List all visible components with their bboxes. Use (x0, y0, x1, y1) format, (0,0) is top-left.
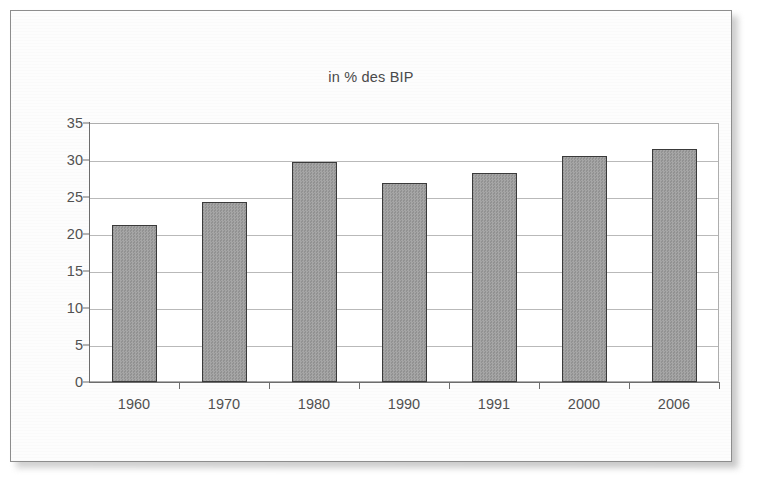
y-axis-tick-mark (83, 382, 90, 383)
y-axis-tick-label: 35 (49, 115, 83, 131)
y-axis-tick-mark (83, 271, 90, 272)
y-axis-tick-label: 20 (49, 226, 83, 242)
y-axis-tick-mark (83, 160, 90, 161)
bar-2000 (562, 156, 607, 382)
x-axis-tick-mark (629, 382, 630, 389)
x-axis-tick-mark (539, 382, 540, 389)
x-axis-tick-mark (179, 382, 180, 389)
bar-1970 (202, 202, 247, 382)
y-axis-tick-label: 5 (49, 337, 83, 353)
x-axis-tick-label-1991: 1991 (478, 396, 510, 412)
y-axis-tick-mark (83, 123, 90, 124)
x-axis-line (89, 382, 720, 383)
x-axis-tick-label-2000: 2000 (568, 396, 600, 412)
y-axis-tick-mark (83, 197, 90, 198)
x-axis-tick-label-1980: 1980 (298, 396, 330, 412)
y-axis-tick-mark (83, 345, 90, 346)
x-axis-tick-mark (719, 382, 720, 389)
bar-2006 (652, 149, 697, 382)
bar-1960 (112, 225, 157, 382)
chart-title: in % des BIP (11, 69, 731, 85)
bar-1991 (472, 173, 517, 382)
x-axis-tick-label-1960: 1960 (118, 396, 150, 412)
bar-1980 (292, 162, 337, 382)
bars-container (90, 124, 718, 382)
x-axis-tick-label-1990: 1990 (388, 396, 420, 412)
y-axis-tick-mark (83, 308, 90, 309)
y-axis-tick-labels: 05101520253035 (39, 11, 83, 496)
x-axis-tick-label-2006: 2006 (658, 396, 690, 412)
scanned-page: in % des BIP 05101520253035 196019701980… (10, 10, 732, 462)
y-axis-tick-label: 25 (49, 189, 83, 205)
y-axis-tick-label: 0 (49, 374, 83, 390)
x-axis-tick-mark (449, 382, 450, 389)
x-axis-tick-mark (269, 382, 270, 389)
y-axis-tick-label: 30 (49, 152, 83, 168)
y-axis-tick-label: 15 (49, 263, 83, 279)
x-axis-tick-label-1970: 1970 (208, 396, 240, 412)
y-axis-tick-label: 10 (49, 300, 83, 316)
y-axis-tick-mark (83, 234, 90, 235)
x-axis-tick-mark (359, 382, 360, 389)
bar-1990 (382, 183, 427, 382)
